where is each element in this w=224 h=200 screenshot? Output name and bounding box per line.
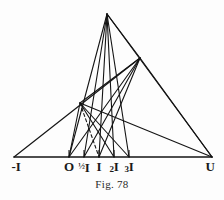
label-2I: 2I <box>109 160 118 173</box>
label-3I: 3I <box>124 160 133 173</box>
segments-layer <box>14 14 212 157</box>
label-U: U <box>205 160 214 173</box>
label-minus-I: -I <box>12 160 21 173</box>
figure-caption: Fig. 78 <box>0 178 224 190</box>
ticks-layer <box>69 150 129 157</box>
figure-78-container: -IO½II2I3IU Fig. 78 <box>0 0 224 200</box>
label-half-I: ½I <box>78 160 89 174</box>
nodeC-to-I-dashed <box>80 103 99 157</box>
label-O: O <box>64 160 74 173</box>
label-I: I <box>97 160 102 173</box>
